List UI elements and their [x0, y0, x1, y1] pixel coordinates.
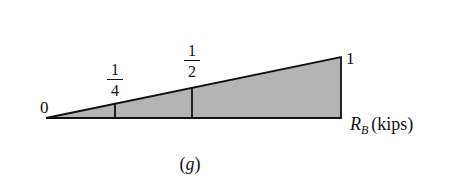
quantity-label: RB(kips) [349, 114, 413, 137]
influence-line-diagram: 0 1 4 1 2 1 RB(kips) (g) [0, 0, 454, 187]
fraction-quarter-denominator: 4 [111, 82, 119, 99]
quantity-symbol: R [349, 114, 361, 134]
fraction-quarter-numerator: 1 [111, 61, 119, 78]
fraction-quarter: 1 4 [107, 61, 123, 99]
start-value-label: 0 [40, 98, 49, 117]
fraction-half-denominator: 2 [188, 63, 196, 80]
units-label: (kips) [371, 114, 413, 135]
fraction-half-numerator: 1 [188, 42, 196, 59]
quantity-subscript: B [361, 123, 369, 137]
fraction-half: 1 2 [184, 42, 200, 80]
caption-text: (g) [180, 154, 201, 175]
end-value-label: 1 [346, 49, 355, 68]
figure-caption: (g) [180, 154, 201, 175]
